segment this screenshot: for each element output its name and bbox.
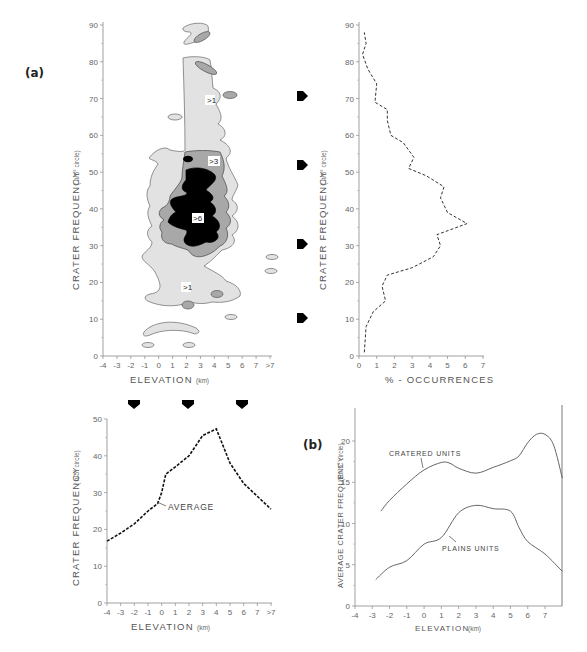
x-tick-label: -4 <box>103 608 111 617</box>
x-tick-label: 2 <box>184 361 189 370</box>
contour-blob-gt3 <box>182 301 194 309</box>
x-tick-label: -2 <box>386 611 394 620</box>
contour-blob-gt1 <box>168 114 182 120</box>
y-tick-label: 40 <box>93 452 102 461</box>
occ-dashed-line <box>363 32 468 352</box>
occ-y-ticks: 0102030405060708090 <box>345 21 359 361</box>
avg-x-ticks: -4-3-2-101234567>7 <box>103 603 276 617</box>
x-tick-label: 1 <box>170 361 175 370</box>
contour-blob-gt1 <box>142 343 154 348</box>
contour-ylabel: CRATER FREQUENCY <box>70 170 81 290</box>
x-tick-label: 4 <box>214 608 219 617</box>
x-tick-label: 3 <box>410 361 415 370</box>
x-tick-label: 4 <box>428 361 433 370</box>
x-tick-label: 0 <box>156 361 161 370</box>
x-tick-label: -4 <box>99 361 107 370</box>
x-tick-label: -3 <box>113 361 121 370</box>
occurrence-plot: 0102030405060708090 01234567 % - OCCURRE… <box>317 21 494 385</box>
x-tick-label: 3 <box>198 361 203 370</box>
occ-x-ticks: 01234567 <box>357 356 486 370</box>
contour-xlabel: ELEVATION <box>130 374 193 385</box>
units-xlabel-unit: (km) <box>468 625 481 633</box>
x-tick-label: 1 <box>173 608 178 617</box>
panel-label-a: (a) <box>25 66 44 80</box>
x-tick-label: 3 <box>200 608 205 617</box>
x-tick-label: 7 <box>254 361 259 370</box>
plains-units-line <box>376 505 563 579</box>
x-tick-label: 2 <box>392 361 397 370</box>
y-tick-label: 10 <box>93 562 102 571</box>
x-tick-label: -2 <box>131 608 139 617</box>
y-tick-label: 0 <box>94 352 99 361</box>
units-ylabel-unit: (R / 5° circle) <box>337 443 345 481</box>
x-tick-label: 5 <box>226 361 231 370</box>
arrow-right-icon <box>297 313 308 323</box>
contour-plot: 0102030405060708090 -4-3-2-101234567>7 >… <box>70 21 278 385</box>
x-tick-label: 2 <box>456 611 461 620</box>
contour-blob-gt3 <box>223 92 237 99</box>
y-tick-label: 20 <box>89 278 98 287</box>
average-plot: 01020304050 -4-3-2-101234567>7 AVERAGE E… <box>70 415 276 632</box>
arrow-down-icon <box>128 400 140 409</box>
x-tick-label: 2 <box>187 608 192 617</box>
y-tick-label: 10 <box>345 315 354 324</box>
x-tick-label: -3 <box>369 611 377 620</box>
x-tick-label: -2 <box>127 361 135 370</box>
arrow-down-icon <box>236 400 248 409</box>
contour-label-gt1-upper: >1 <box>207 96 217 105</box>
y-tick-label: 60 <box>89 131 98 140</box>
x-tick-label: >7 <box>266 608 276 617</box>
avg-ylabel-unit: ( n/5° circle) <box>73 450 81 485</box>
plains-leader <box>449 536 456 542</box>
x-tick-label: 0 <box>357 361 362 370</box>
x-tick-label: >7 <box>265 361 275 370</box>
cratered-units-line <box>381 433 562 511</box>
y-tick-label: 60 <box>345 131 354 140</box>
y-tick-label: 40 <box>89 205 98 214</box>
y-tick-label: 20 <box>93 525 102 534</box>
x-tick-label: 7 <box>255 608 260 617</box>
x-tick-label: 5 <box>508 611 513 620</box>
occ-ylabel-unit: ( n/5° circle) <box>320 150 328 185</box>
y-tick-label: 90 <box>345 21 354 30</box>
x-tick-label: -3 <box>117 608 125 617</box>
y-tick-label: 10 <box>89 315 98 324</box>
arrow-down-icon <box>182 400 194 409</box>
x-tick-label: 6 <box>463 361 468 370</box>
right-arrows <box>297 91 308 323</box>
x-tick-label: 7 <box>543 611 548 620</box>
units-x-ticks: -4-3-2-101234567 <box>351 606 547 620</box>
contour-blob-gt1 <box>225 315 237 320</box>
arrow-right-icon <box>297 239 308 249</box>
x-tick-label: 1 <box>439 611 444 620</box>
contour-blob-gt1 <box>266 255 278 260</box>
x-tick-label: 5 <box>445 361 450 370</box>
y-tick-label: 0 <box>346 602 351 611</box>
contour-label-gt1-lower: >1 <box>183 283 193 292</box>
y-tick-label: 30 <box>93 489 102 498</box>
contour-xlabel-unit: (km) <box>196 377 209 385</box>
avg-annotation-leader <box>157 502 166 506</box>
x-tick-label: 6 <box>526 611 531 620</box>
arrow-right-icon <box>297 91 308 101</box>
cratered-units-label: CRATERED UNITS <box>389 450 461 457</box>
avg-y-ticks: 01020304050 <box>93 415 107 608</box>
x-tick-label: 4 <box>212 361 217 370</box>
down-arrows <box>128 400 248 409</box>
y-tick-label: 5 <box>346 561 351 570</box>
y-tick-label: 20 <box>345 278 354 287</box>
x-tick-label: 6 <box>240 361 245 370</box>
units-xlabel: ELEVATION <box>415 624 470 633</box>
figure-canvas: (a) (b) 0102030405060708090 -4-3-2-10123… <box>0 0 587 652</box>
contour-blob-gt3 <box>211 291 223 298</box>
x-tick-label: -1 <box>144 608 152 617</box>
y-tick-label: 40 <box>345 205 354 214</box>
y-tick-label: 80 <box>89 58 98 67</box>
panel-label-b: (b) <box>303 438 323 452</box>
contour-label-gt3: >3 <box>209 157 219 166</box>
units-plot: 05101520 -4-3-2-101234567 CRATERED UNITS… <box>336 405 562 633</box>
contour-y-ticks: 0102030405060708090 <box>89 21 103 361</box>
cratered-leader <box>421 458 423 468</box>
y-tick-label: 30 <box>89 242 98 251</box>
y-tick-label: 0 <box>350 352 355 361</box>
